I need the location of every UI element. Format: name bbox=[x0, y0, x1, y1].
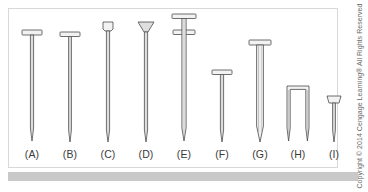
staple-h-body bbox=[287, 86, 309, 141]
nail-a-drawing bbox=[14, 8, 50, 153]
nail-d: (D) bbox=[128, 8, 164, 168]
nail-b: (B) bbox=[52, 8, 88, 168]
nail-f-drawing bbox=[204, 8, 240, 153]
nail-f-label: (F) bbox=[204, 148, 240, 160]
nail-b-head bbox=[60, 32, 80, 37]
nail-g-label: (G) bbox=[242, 148, 278, 160]
nail-d-head bbox=[138, 22, 154, 32]
nail-types-figure: (A) (B) (C) bbox=[0, 0, 368, 192]
nail-b-label: (B) bbox=[52, 148, 88, 160]
copyright-credit: Copyright © 2014 Cengage Learning® All R… bbox=[352, 0, 366, 192]
nail-e-label: (E) bbox=[166, 148, 202, 160]
nail-b-drawing bbox=[52, 8, 88, 153]
nail-e: (E) bbox=[166, 8, 202, 168]
copyright-credit-text: Copyright © 2014 Cengage Learning® All R… bbox=[356, 3, 363, 188]
staple-h: (H) bbox=[280, 8, 316, 168]
nail-i-drawing bbox=[316, 8, 352, 153]
nail-d-label: (D) bbox=[128, 148, 164, 160]
staple-h-label: (H) bbox=[280, 148, 316, 160]
nail-g-head bbox=[249, 40, 271, 45]
nail-i-head bbox=[327, 96, 341, 103]
nail-c-label: (C) bbox=[90, 148, 126, 160]
nail-g-drawing bbox=[242, 8, 278, 153]
nail-f: (F) bbox=[204, 8, 240, 168]
nail-g: (G) bbox=[242, 8, 278, 168]
nail-i: (I) bbox=[316, 8, 352, 168]
nail-d-drawing bbox=[128, 8, 164, 153]
staple-h-drawing bbox=[280, 8, 316, 153]
nail-i-label: (I) bbox=[316, 148, 352, 160]
nail-c: (C) bbox=[90, 8, 126, 168]
nail-g-shank bbox=[257, 45, 264, 142]
nail-f-head bbox=[212, 70, 232, 75]
nail-e-drawing bbox=[166, 8, 202, 153]
ground-bar bbox=[8, 172, 358, 181]
nail-e-upper-head bbox=[172, 14, 196, 19]
nail-a: (A) bbox=[14, 8, 50, 168]
nail-a-label: (A) bbox=[14, 148, 50, 160]
nail-c-head bbox=[103, 22, 113, 31]
nail-a-head bbox=[22, 30, 42, 35]
nail-c-drawing bbox=[90, 8, 126, 153]
